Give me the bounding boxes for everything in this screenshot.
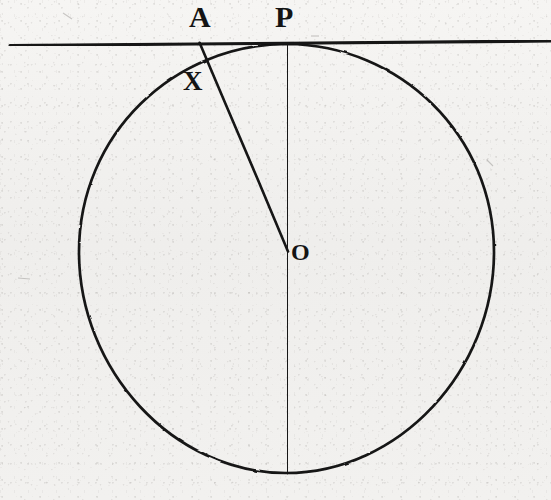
point-label-a: A bbox=[189, 2, 211, 32]
diagram-page: A P X O bbox=[0, 0, 551, 500]
point-label-o: O bbox=[291, 240, 310, 264]
stray-paper-marks bbox=[18, 13, 493, 279]
segment-a-to-o bbox=[200, 43, 288, 252]
point-label-p: P bbox=[275, 2, 293, 32]
point-label-x: X bbox=[183, 68, 203, 95]
geometry-diagram-canvas bbox=[0, 0, 551, 500]
